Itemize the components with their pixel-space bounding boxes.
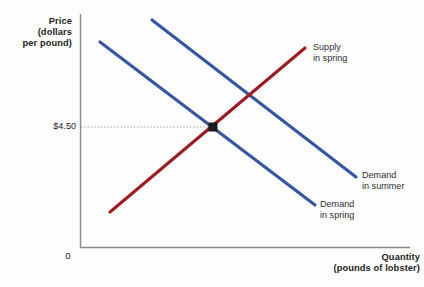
equilibrium-point-marker xyxy=(209,123,218,132)
supply-spring-label: Supply in spring xyxy=(313,42,347,63)
axis-origin-label: 0 xyxy=(62,251,74,262)
y-axis-title: Price (dollars per pound) xyxy=(0,16,72,49)
supply-demand-chart: Price (dollars per pound) Quantity (poun… xyxy=(0,0,424,287)
y-axis-tick-label-price: $4.50 xyxy=(36,121,76,132)
x-axis-title: Quantity (pounds of lobster) xyxy=(268,252,420,274)
demand-spring-label: Demand in spring xyxy=(320,199,354,220)
demand-summer-label: Demand in summer xyxy=(362,170,404,191)
